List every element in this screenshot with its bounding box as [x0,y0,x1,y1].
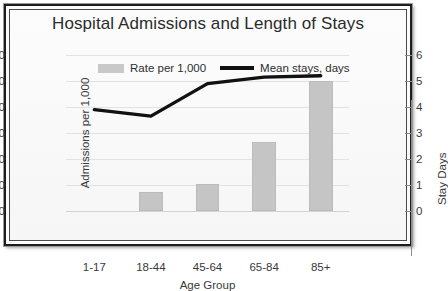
secondary-y-axis-tick-label: 3 [416,127,440,139]
x-axis-tick-label: 45-64 [193,261,222,273]
secondary-y-axis-line [411,100,412,256]
chart-title: Hospital Admissions and Length of Stays [10,14,406,34]
y-axis-tick-label: 300 [0,127,5,139]
y-axis-tick-label: 400 [0,101,5,113]
y-axis-tick-label: 600 [0,49,5,61]
x-axis-tick-label: 65-84 [249,261,278,273]
secondary-y-axis-tick-label: 0 [416,205,440,217]
chart-legend: Rate per 1,000 Mean stays, days [98,62,350,74]
legend-line-label: Mean stays, days [260,62,349,74]
x-axis-tick-label: 1-17 [83,261,106,273]
secondary-y-axis-label: Stay Days [436,153,448,205]
y-axis-label: Admissions per 1,000 [79,78,91,189]
secondary-y-axis-tick-label: 6 [416,49,440,61]
line-path [94,76,320,116]
secondary-y-axis-tick-mark [405,55,412,56]
y-axis-tick-label: 200 [0,153,5,165]
legend-line-swatch-icon [220,66,254,70]
chart-inner-border: Hospital Admissions and Length of Stays … [9,9,407,241]
y-axis-tick-label: 0 [0,205,5,217]
line-series [66,55,349,211]
secondary-y-axis-tick-mark [405,81,412,82]
x-axis-tick-label: 85+ [311,261,331,273]
gridline [66,211,349,212]
legend-bar-swatch-icon [98,64,124,73]
x-axis-label: Age Group [66,279,349,291]
legend-bar-label: Rate per 1,000 [130,62,206,74]
y-axis-tick-label: 100 [0,179,5,191]
chart-frame: Hospital Admissions and Length of Stays … [4,4,412,246]
legend-item-line: Mean stays, days [220,62,349,74]
y-axis-tick-label: 500 [0,75,5,87]
secondary-y-axis-tick-label: 5 [416,75,440,87]
plot-area: Admissions per 1,000 0100200300400500600… [66,55,349,211]
x-axis-tick-label: 18-44 [136,261,165,273]
secondary-y-axis-tick-label: 4 [416,101,440,113]
legend-item-bar: Rate per 1,000 [98,62,206,74]
